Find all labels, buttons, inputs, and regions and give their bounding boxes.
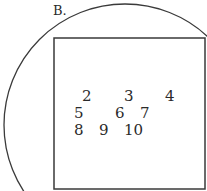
element-label: 4 [165, 89, 175, 104]
element-label: 6 [115, 106, 125, 121]
element-label: 10 [124, 123, 143, 138]
element-label: 7 [140, 106, 150, 121]
element-label: 9 [99, 123, 109, 138]
element-label: 2 [82, 89, 92, 104]
element-label: 5 [74, 106, 84, 121]
element-label: 8 [74, 123, 84, 138]
diagram-title: B. [53, 4, 67, 17]
venn-diagram: B. 2345678910 [0, 0, 207, 191]
set-circle [4, 4, 207, 191]
diagram-shapes [0, 0, 207, 191]
element-label: 3 [124, 89, 134, 104]
